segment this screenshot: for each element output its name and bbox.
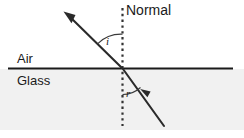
refraction-diagram: Normal Air Glass i r bbox=[0, 0, 244, 138]
angle-of-incidence-label: i bbox=[106, 36, 109, 47]
air-medium-label: Air bbox=[17, 52, 33, 65]
glass-medium-label: Glass bbox=[17, 74, 50, 87]
emergent-ray-line bbox=[68, 15, 122, 68]
refraction-svg-canvas bbox=[0, 0, 244, 138]
angle-of-refraction-label: r bbox=[126, 88, 130, 99]
angle-i-arc bbox=[98, 34, 123, 44]
normal-label: Normal bbox=[126, 3, 171, 17]
